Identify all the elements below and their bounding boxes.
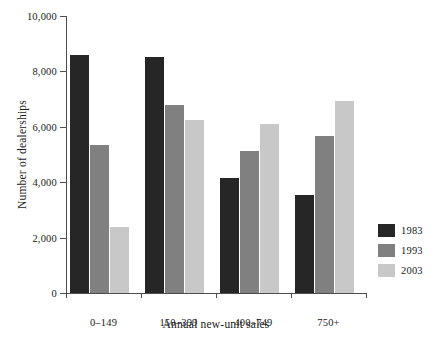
y-tick-mark <box>60 16 67 17</box>
bar-2003-400–749 <box>260 124 279 293</box>
y-tick-label: 2,000 <box>32 232 57 243</box>
legend-item-2003: 2003 <box>378 261 423 279</box>
bar-1983-750+ <box>295 195 314 293</box>
legend-swatch-icon-1993 <box>378 244 395 257</box>
legend-label-2003: 2003 <box>401 265 423 276</box>
bar-2003-750+ <box>335 101 354 293</box>
legend-swatch-icon-2003 <box>378 264 395 277</box>
bar-2003-0–149 <box>110 227 129 293</box>
y-tick-mark <box>60 71 67 72</box>
legend-item-1993: 1993 <box>378 241 423 259</box>
bar-1993-400–749 <box>240 151 259 293</box>
y-tick-label: 6,000 <box>32 121 57 132</box>
legend-item-1983: 1983 <box>378 221 423 239</box>
bar-1993-750+ <box>315 136 334 293</box>
x-tick-mark <box>291 293 292 298</box>
y-tick-mark <box>60 238 67 239</box>
bar-1983-0–149 <box>70 55 89 293</box>
x-tick-mark <box>141 293 142 298</box>
y-axis-title: Number of dealerships <box>14 16 30 293</box>
bar-2003-150–399 <box>185 120 204 293</box>
bar-1993-150–399 <box>165 105 184 293</box>
legend-label-1993: 1993 <box>401 245 423 256</box>
x-axis-title: Annual new-unit sales <box>66 318 366 330</box>
y-tick-label: 4,000 <box>32 177 57 188</box>
x-tick-mark <box>366 293 367 298</box>
y-tick-mark <box>60 182 67 183</box>
bar-chart: Number of dealerships 10,0008,0006,0004,… <box>0 0 446 342</box>
bar-1983-150–399 <box>145 57 164 293</box>
x-tick-mark <box>216 293 217 298</box>
legend-label-1983: 1983 <box>401 225 423 236</box>
y-tick-label: 8,000 <box>32 66 57 77</box>
legend-swatch-icon-1983 <box>378 224 395 237</box>
legend: 1983 1993 2003 <box>378 221 423 281</box>
bar-1993-0–149 <box>90 145 109 293</box>
plot-area: 10,0008,0006,0004,0002,00000–149150–3994… <box>66 16 366 293</box>
bar-1983-400–749 <box>220 178 239 293</box>
x-tick-mark <box>66 293 67 298</box>
y-tick-label: 0 <box>52 288 57 299</box>
y-tick-label: 10,000 <box>27 11 57 22</box>
y-tick-mark <box>60 127 67 128</box>
